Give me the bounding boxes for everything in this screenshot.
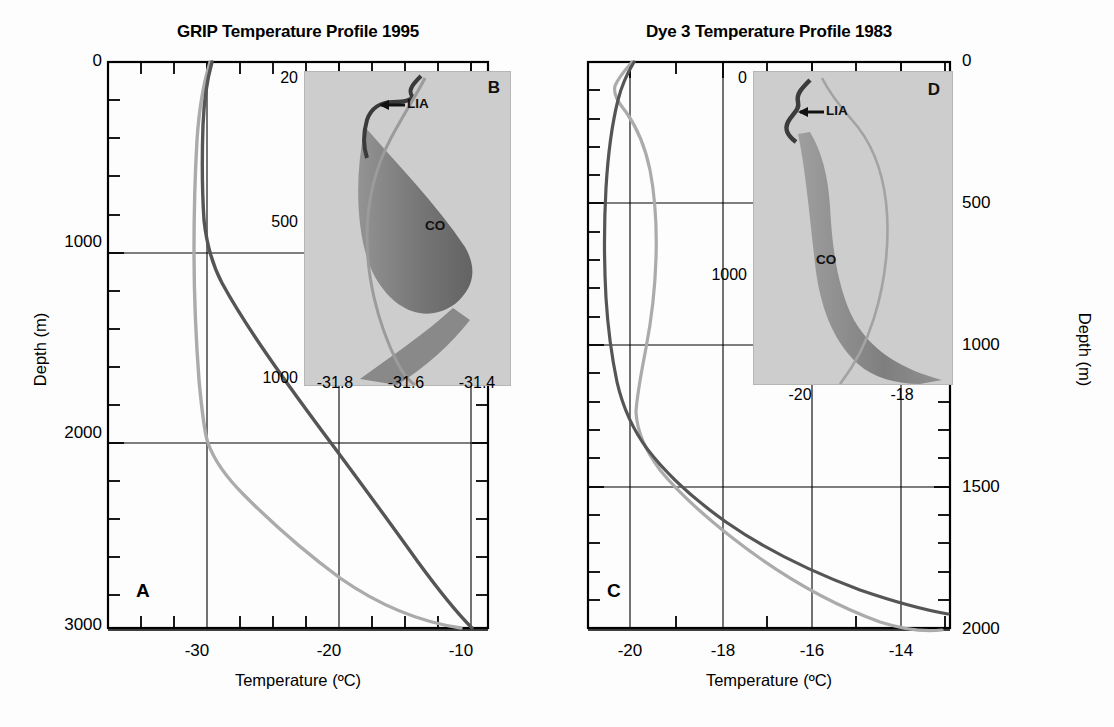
inset-d-ytick-1000: 1000 [675,266,747,284]
inset-d-co-label: CO [816,252,836,267]
inset-d-letter: D [928,80,940,100]
panel-c-bottom-ticks [676,616,945,628]
panel-c-left-ticks [588,90,604,600]
inset-d-ytick-0: 0 [703,69,747,87]
inset-d-xtick-n18: -18 [890,386,913,404]
figure-root: GRIP Temperature Profile 1995 Depth (m) … [0,0,1114,727]
inset-d: D LIA CO [753,71,953,385]
inset-d-xtick-n20: -20 [788,386,811,404]
inset-d-graphic [754,72,952,384]
inset-d-lia-label: LIA [826,103,848,118]
